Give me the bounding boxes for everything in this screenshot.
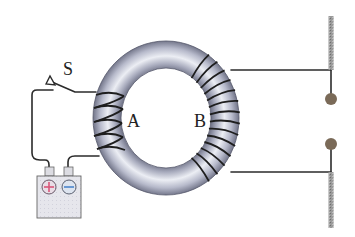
torus-core bbox=[93, 41, 239, 195]
label-coil-b: B bbox=[194, 111, 206, 131]
rod-top bbox=[329, 16, 334, 70]
battery bbox=[37, 167, 81, 218]
label-coil-a: A bbox=[127, 111, 140, 131]
secondary-circuit-wires bbox=[231, 70, 331, 172]
electrode-ball-bottom bbox=[325, 138, 337, 150]
battery-terminal-negative bbox=[64, 167, 73, 176]
battery-terminal-positive bbox=[45, 167, 54, 176]
label-switch: S bbox=[63, 59, 73, 79]
switch-pivot-icon bbox=[46, 76, 55, 85]
electrode-ball-top bbox=[325, 93, 337, 105]
primary-circuit-wires bbox=[32, 82, 99, 169]
switch-s[interactable] bbox=[46, 76, 55, 85]
diagram-canvas: A B S bbox=[0, 0, 355, 237]
rod-bottom bbox=[329, 172, 334, 228]
